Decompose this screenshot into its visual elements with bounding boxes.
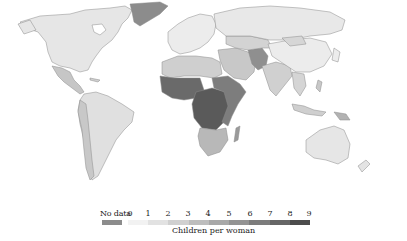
- scale-tick: 7: [267, 209, 272, 218]
- scale-segment-4-5: [209, 220, 229, 225]
- region-russia: [214, 6, 345, 40]
- scale-tick: 8: [287, 209, 292, 218]
- scale-tick: 0: [127, 209, 132, 218]
- region-new-zealand: [358, 160, 370, 172]
- region-north-america: [20, 6, 132, 72]
- no-data-swatch: [102, 220, 122, 225]
- scale-segment-5-6: [229, 220, 249, 225]
- scale-tick: 6: [247, 209, 252, 218]
- region-philippines: [316, 80, 322, 92]
- region-caribbean: [90, 78, 100, 82]
- region-southeast-asia: [292, 72, 306, 96]
- region-europe: [168, 14, 216, 54]
- region-australia: [306, 126, 350, 164]
- region-greenland: [130, 2, 168, 26]
- region-madagascar: [234, 126, 240, 142]
- scale-tick: 4: [205, 209, 210, 218]
- region-india: [262, 62, 292, 96]
- legend-title: Children per woman: [172, 226, 255, 235]
- region-japan: [332, 48, 340, 62]
- region-png: [334, 112, 350, 120]
- scale-segment-2-3: [168, 220, 188, 225]
- scale-tick: 5: [226, 209, 231, 218]
- scale-segment-0-1: [128, 220, 148, 225]
- scale-tick: 3: [185, 209, 190, 218]
- world-map: [0, 0, 407, 200]
- scale-segment-6-7: [249, 220, 269, 225]
- scale-tick: 2: [165, 209, 170, 218]
- scale-segment-8-9: [290, 220, 310, 225]
- region-north-africa: [162, 56, 222, 78]
- scale-segment-3-4: [189, 220, 209, 225]
- region-southern-africa: [198, 128, 228, 156]
- color-scale-bar: [128, 220, 310, 225]
- scale-tick: 9: [306, 209, 311, 218]
- region-indonesia: [292, 104, 326, 116]
- scale-segment-1-2: [148, 220, 168, 225]
- scale-tick: 1: [145, 209, 150, 218]
- scale-segment-7-8: [270, 220, 290, 225]
- no-data-label: No data: [100, 209, 131, 218]
